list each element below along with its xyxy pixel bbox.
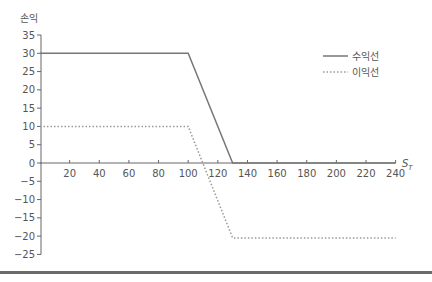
y-tick-label: 0 [29, 158, 35, 169]
x-tick-label: 80 [152, 168, 165, 179]
y-tick-label: −5 [20, 176, 35, 187]
y-tick-label: 15 [22, 103, 35, 114]
x-tick-label: 180 [297, 168, 316, 179]
y-tick-label: −10 [14, 194, 35, 205]
x-tick-label: 60 [123, 168, 136, 179]
bottom-divider [0, 271, 432, 274]
series-lines [40, 53, 396, 238]
y-tick-label: 5 [29, 139, 35, 150]
legend: 수익선 이익선 [323, 51, 379, 78]
x-tick-label: 140 [238, 168, 257, 179]
x-tick-label: 160 [268, 168, 287, 179]
y-tick-label: 25 [22, 66, 35, 77]
legend-label-profit: 수익선 [352, 51, 379, 62]
y-axis: 35302520151050−5−10−15−20−25 [14, 30, 41, 260]
legend-label-gain: 이익선 [352, 67, 379, 78]
x-tick-label: 200 [327, 168, 346, 179]
y-tick-label: 10 [22, 121, 35, 132]
y-tick-label: 35 [22, 30, 35, 41]
y-tick-label: −20 [14, 231, 35, 242]
payoff-chart: 35302520151050−5−10−15−20−25 20406080100… [0, 0, 432, 282]
x-tick-label: 240 [386, 168, 405, 179]
x-tick-label: 220 [356, 168, 375, 179]
x-tick-label: 20 [63, 168, 76, 179]
profit-line [40, 53, 396, 163]
x-tick-label: 100 [179, 168, 198, 179]
y-tick-label: −25 [14, 249, 35, 260]
y-tick-label: 20 [22, 84, 35, 95]
y-tick-label: 30 [22, 48, 35, 59]
gain-line [40, 126, 396, 238]
y-axis-label: 손익 [20, 13, 38, 24]
x-tick-label: 120 [208, 168, 227, 179]
x-tick-label: 40 [93, 168, 106, 179]
y-tick-label: −15 [14, 212, 35, 223]
